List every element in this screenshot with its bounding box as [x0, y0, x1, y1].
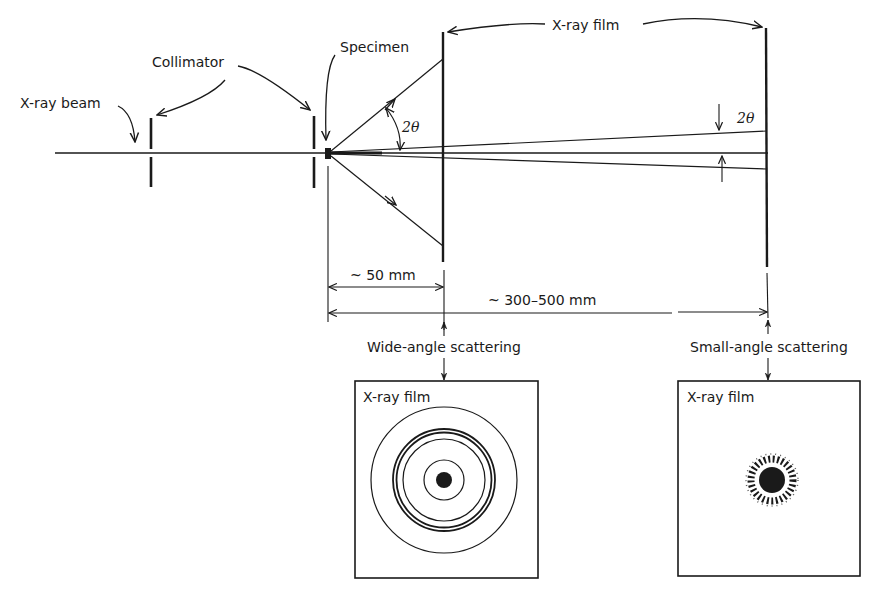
film-small-angle [766, 28, 767, 267]
film-leader-left [448, 24, 545, 32]
diffraction-rings [371, 407, 517, 553]
xray-beam-leader [118, 106, 135, 142]
dimension-long-label: ~ 300–500 mm [488, 292, 596, 308]
small-angle-label: Small-angle scattering [690, 339, 848, 355]
central-spot [436, 472, 452, 488]
film-box-wide-title: X-ray film [363, 389, 430, 405]
film-box-small-title: X-ray film [687, 389, 754, 405]
xray-scattering-diagram: 2θ 2θ X-ray beam Collimator Specimen X-r… [0, 0, 879, 591]
film-box-wide: X-ray film [355, 381, 538, 578]
wide-angle-label: Wide-angle scattering [367, 339, 521, 355]
collimator-leader-1 [157, 80, 225, 115]
dimension-short-label: ~ 50 mm [350, 267, 416, 283]
xray-film-top-label: X-ray film [552, 17, 619, 33]
small-angle-halo [746, 454, 798, 506]
central-spot-small [759, 467, 785, 493]
collimator-label: Collimator [152, 54, 224, 70]
collimator-leader-2 [238, 66, 310, 110]
film-leader-right [643, 19, 762, 27]
angle-label-wide: 2θ [401, 119, 420, 135]
specimen-block [325, 148, 331, 159]
angle-arc-wide [386, 108, 400, 150]
angle-label-small: 2θ [736, 110, 755, 126]
film-small-reference [767, 273, 768, 318]
wide-ray-upper [331, 59, 443, 151]
specimen-label: Specimen [340, 39, 409, 55]
small-ray-upper [331, 131, 767, 152]
film-box-small: X-ray film [678, 381, 860, 576]
specimen-leader [326, 55, 335, 140]
small-ray-lower [331, 154, 767, 169]
wide-ray-lower [331, 156, 443, 246]
xray-beam-label: X-ray beam [20, 95, 101, 111]
